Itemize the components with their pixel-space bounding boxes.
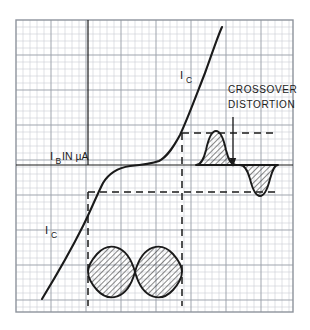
transfer-characteristic-figure: I C I C I B IN µA CROSSOVER DISTORTION bbox=[0, 0, 310, 330]
ic-lower-subscript: C bbox=[51, 230, 57, 240]
ic-lower-text: I bbox=[45, 224, 48, 236]
ib-axis-text: I bbox=[50, 150, 53, 162]
crossover-line-1: CROSSOVER bbox=[228, 84, 297, 95]
graph-canvas: I C I C I B IN µA CROSSOVER DISTORTION bbox=[0, 0, 310, 330]
crossover-line-2: DISTORTION bbox=[228, 99, 295, 110]
ic-upper-subscript: C bbox=[186, 75, 192, 85]
ib-axis-units: IN µA bbox=[62, 150, 88, 162]
ib-axis-subscript: B bbox=[56, 156, 62, 166]
ic-upper-text: I bbox=[180, 69, 183, 81]
